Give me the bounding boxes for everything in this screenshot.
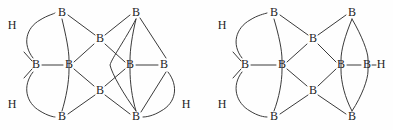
figure-canvas: B B B B B B B B B B H H H	[0, 0, 393, 130]
atom-label: B	[96, 31, 104, 45]
bond-l2-l7	[140, 18, 166, 58]
atom-label: B	[270, 109, 278, 123]
bond-l8-l9	[68, 95, 95, 114]
atom-label: H	[218, 18, 227, 32]
bond-l3-diamond-right	[105, 44, 125, 62]
bond-r5-diamond-down	[287, 69, 307, 86]
right-structure: B B B B B B B B B B H H H	[218, 5, 386, 123]
atom-label: B	[337, 57, 345, 71]
bond-r8-diamond-right	[318, 69, 336, 86]
atom-label: B	[65, 57, 73, 71]
atom-label: B	[309, 83, 317, 97]
atom-label: H	[8, 97, 17, 111]
bond-l8-diamond-right	[105, 69, 125, 86]
atom-label: B	[132, 109, 140, 123]
bond-r5-diamond-up	[287, 44, 307, 62]
left-structure: B B B B B B B B B B H H H	[8, 5, 191, 123]
molecular-diagram: B B B B B B B B B B H H H	[0, 0, 393, 130]
bond-l5-diamond-up	[74, 44, 94, 62]
bridge-bond-h-upper-left	[27, 13, 55, 58]
bond-r3-diamond-right	[318, 44, 336, 62]
bond-l1-l3	[68, 15, 95, 35]
bond-l7-l10	[141, 72, 166, 112]
atom-label: H	[182, 97, 191, 111]
atom-label: B	[32, 57, 40, 71]
atom-label: B	[270, 5, 278, 19]
bond-l4-bridgestub-up	[24, 52, 32, 61]
bond-r4-bridgestub-dn	[233, 69, 241, 78]
bond-r8-r10	[318, 95, 346, 114]
atom-label: B	[58, 5, 66, 19]
atom-label: B	[126, 57, 134, 71]
atom-label: B	[58, 109, 66, 123]
bond-l5-diamond-down	[74, 69, 94, 86]
bond-r4-bridgestub-up	[233, 52, 241, 61]
atom-label: H	[8, 18, 17, 32]
atom-label: B	[160, 57, 168, 71]
bond-l3-l2	[105, 15, 130, 35]
bridge-bond-h-lower-left	[236, 72, 267, 117]
bond-r3-r2	[318, 15, 346, 35]
atom-label: B	[309, 31, 317, 45]
bridge-bond-h-lower-left	[27, 72, 55, 117]
bond-l4-bridgestub-dn	[24, 69, 32, 78]
atom-label: B	[96, 83, 104, 97]
bond-r8-r9	[280, 95, 308, 114]
atom-label: B	[132, 5, 140, 19]
bridge-bond-h-lower-right	[143, 72, 175, 117]
bridge-bond-h-upper-left	[236, 13, 267, 58]
atom-label: B	[348, 5, 356, 19]
atom-label: B	[363, 57, 371, 71]
bond-r1-r3	[280, 15, 308, 35]
atom-label: B	[278, 57, 286, 71]
atom-label: H	[377, 57, 386, 71]
atom-label: B	[241, 57, 249, 71]
atom-label: B	[348, 109, 356, 123]
atom-label: H	[218, 97, 227, 111]
